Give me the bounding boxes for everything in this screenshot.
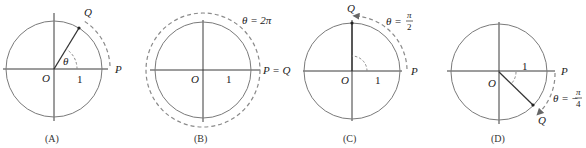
panel-c: O 1 P Q θ = π 2 (C) xyxy=(303,2,418,145)
panel-d: O 1 P Q θ = − π 4 (D) xyxy=(447,22,582,145)
theta-denominator: 4 xyxy=(576,99,581,109)
origin-label: O xyxy=(191,73,199,85)
theta-label: θ xyxy=(63,55,69,67)
angle-arc xyxy=(352,56,367,71)
unit-label: 1 xyxy=(77,73,83,85)
p-label: P xyxy=(560,65,568,77)
unit-label: 1 xyxy=(226,73,232,85)
caption-b: (B) xyxy=(194,133,207,145)
theta-label: θ = 2π xyxy=(242,14,272,26)
origin-label: O xyxy=(42,72,50,84)
q-label: Q xyxy=(347,2,355,14)
origin-label: O xyxy=(341,74,349,86)
theta-label-prefix: θ = xyxy=(386,15,402,27)
unit-circle-figure: θ O 1 P Q (A) O 1 P = Q θ = 2π (B) O 1 P… xyxy=(0,0,586,148)
panel-a: θ O 1 P Q (A) xyxy=(3,6,122,145)
p-label: P xyxy=(410,65,418,77)
p-label: P xyxy=(114,63,122,75)
point-q xyxy=(77,26,80,29)
caption-d: (D) xyxy=(491,133,505,145)
q-label: Q xyxy=(84,6,92,18)
caption-c: (C) xyxy=(343,133,356,145)
caption-a: (A) xyxy=(45,133,59,145)
theta-numerator: π xyxy=(576,87,581,97)
theta-label-prefix: θ = − xyxy=(553,92,579,104)
angle-arc xyxy=(511,72,516,84)
origin-label: O xyxy=(488,77,496,89)
theta-numerator: π xyxy=(407,10,412,20)
point-q xyxy=(531,103,534,106)
rotation-arc xyxy=(84,21,110,66)
unit-label: 1 xyxy=(522,60,528,72)
unit-label: 1 xyxy=(375,74,381,86)
point-q xyxy=(350,21,353,24)
theta-denominator: 2 xyxy=(407,22,412,32)
radius-oq xyxy=(499,72,533,105)
q-label: Q xyxy=(538,114,546,126)
p-equals-q-label: P = Q xyxy=(262,64,290,76)
panel-b: O 1 P = Q θ = 2π (B) xyxy=(146,13,290,145)
